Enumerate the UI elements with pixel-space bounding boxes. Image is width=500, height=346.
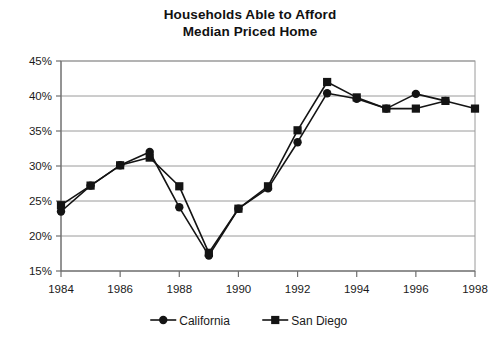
series-california	[57, 89, 450, 260]
chart-legend: CaliforniaSan Diego	[150, 314, 347, 328]
y-axis-label-30%: 30%	[29, 160, 52, 172]
data-point-marker	[205, 249, 213, 257]
line-chart-svg: 15%20%25%30%35%40%45% 198419861988199019…	[0, 0, 500, 346]
x-axis-label-1992: 1992	[285, 283, 311, 295]
series-line-california	[61, 93, 445, 255]
data-point-marker	[412, 105, 420, 113]
y-axis-label-40%: 40%	[29, 90, 52, 102]
data-point-marker	[264, 182, 272, 190]
data-point-marker	[175, 182, 183, 190]
x-axis-label-1996: 1996	[403, 283, 429, 295]
plot-area: 15%20%25%30%35%40%45% 198419861988199019…	[0, 0, 500, 346]
data-point-marker	[412, 90, 420, 98]
data-point-marker	[57, 201, 65, 209]
data-point-marker	[323, 89, 331, 97]
chart-container: Households Able to Afford Median Priced …	[0, 0, 500, 346]
y-axis-label-20%: 20%	[29, 230, 52, 242]
data-point-marker	[146, 154, 154, 162]
data-point-marker	[175, 203, 183, 211]
legend-label: San Diego	[291, 314, 347, 328]
x-axis-tick-labels: 19841986198819901992199419961998	[48, 283, 488, 295]
y-axis-label-45%: 45%	[29, 55, 52, 67]
legend-item-california[interactable]: California	[150, 314, 230, 328]
circle-marker-icon	[159, 316, 167, 324]
y-axis-label-25%: 25%	[29, 195, 52, 207]
data-point-marker	[86, 182, 94, 190]
x-axis-label-1986: 1986	[107, 283, 133, 295]
data-point-marker	[293, 126, 301, 134]
x-axis-label-1990: 1990	[226, 283, 252, 295]
x-axis-label-1998: 1998	[462, 283, 488, 295]
x-axis-label-1984: 1984	[48, 283, 74, 295]
x-axis-label-1994: 1994	[344, 283, 370, 295]
data-point-marker	[116, 161, 124, 169]
legend-label: California	[179, 314, 230, 328]
y-axis-tick-labels: 15%20%25%30%35%40%45%	[29, 55, 52, 277]
y-axis-label-35%: 35%	[29, 125, 52, 137]
data-point-marker	[382, 105, 390, 113]
legend-item-san-diego[interactable]: San Diego	[262, 314, 347, 328]
x-axis-label-1988: 1988	[166, 283, 192, 295]
data-point-marker	[353, 93, 361, 101]
series-san-diego	[57, 78, 479, 257]
data-point-marker	[323, 78, 331, 86]
data-point-marker	[234, 205, 242, 213]
data-point-marker	[471, 105, 479, 113]
data-point-marker	[293, 138, 301, 146]
data-series	[57, 78, 479, 260]
square-marker-icon	[271, 316, 279, 324]
data-point-marker	[441, 97, 449, 105]
y-axis-label-15%: 15%	[29, 265, 52, 277]
